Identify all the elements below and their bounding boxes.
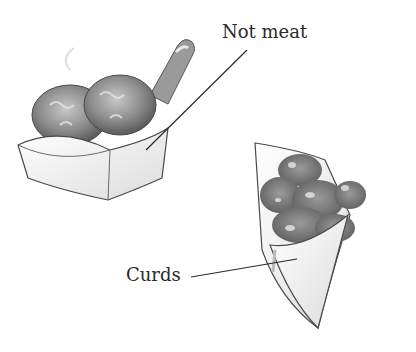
curds-label: Curds (126, 264, 181, 285)
scoop-with-fried-balls (18, 40, 195, 200)
illustration-drawing (0, 0, 416, 352)
not-meat-label: Not meat (222, 21, 307, 42)
illustration-canvas: Not meat Curds (0, 0, 416, 352)
paper-cone-with-curds (255, 143, 366, 328)
